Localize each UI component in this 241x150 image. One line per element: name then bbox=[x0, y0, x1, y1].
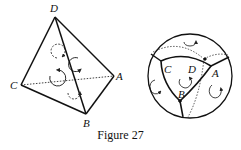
proj-label-a: A bbox=[211, 67, 219, 79]
vertex-label-a: A bbox=[115, 70, 123, 82]
circle-projection bbox=[148, 34, 232, 118]
proj-label-c: C bbox=[164, 63, 172, 75]
proj-label-d: D bbox=[187, 63, 196, 75]
vertex-label-c: C bbox=[10, 79, 18, 91]
figure-caption: Figure 27 bbox=[0, 128, 241, 143]
vertex-label-d: D bbox=[49, 2, 58, 14]
proj-label-b: B bbox=[178, 88, 185, 100]
tetrahedron bbox=[21, 17, 114, 114]
